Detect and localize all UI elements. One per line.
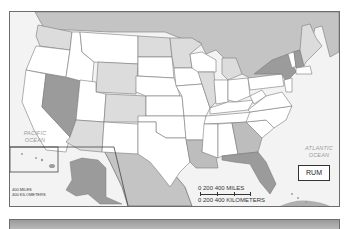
state-new-mexico	[102, 122, 138, 154]
scale-bar: 0 200 400 MILES 0 200 400 KILOMETERS	[198, 184, 265, 204]
state-kansas	[146, 96, 184, 116]
next-map-strip	[9, 219, 340, 229]
state-wyoming	[96, 62, 138, 94]
state-mississippi	[202, 124, 218, 158]
state-south-dakota	[138, 57, 174, 78]
state-indiana	[214, 80, 228, 104]
scale-miles-label: 0 200 400 MILES	[198, 184, 265, 192]
atlantic-ocean-label: ATLANTIC OCEAN	[302, 145, 336, 159]
state-nebraska	[136, 76, 180, 96]
state-hawaii	[21, 153, 55, 168]
state-ohio	[228, 78, 250, 102]
map-canvas	[10, 12, 339, 206]
state-wisconsin	[190, 52, 216, 72]
pacific-ocean-label: PACIFIC OCEAN	[20, 130, 50, 144]
scale-bar-line	[200, 192, 250, 196]
state-maine	[300, 24, 322, 66]
inset-scale-bar: 400 MILES 400 KILOMETERS	[12, 187, 46, 197]
state-arkansas	[184, 116, 206, 140]
us-map: PACIFIC OCEAN ATLANTIC OCEAN RUM	[9, 11, 340, 207]
inset-scale-km-label: 400 KILOMETERS	[12, 192, 46, 197]
legend-code-box: RUM	[298, 165, 330, 181]
scale-km-label: 0 200 400 KILOMETERS	[198, 196, 265, 204]
state-new-jersey	[284, 78, 292, 92]
state-north-dakota	[138, 36, 172, 57]
cuba-region	[280, 200, 330, 206]
